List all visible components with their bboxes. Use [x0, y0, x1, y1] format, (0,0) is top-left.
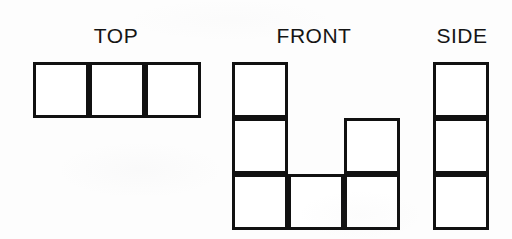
grid-cell — [344, 118, 400, 174]
grid-cell — [89, 62, 145, 118]
view-label-side: SIDE — [430, 25, 494, 46]
grid-cell — [145, 62, 201, 118]
grid-cell — [433, 118, 489, 174]
orthographic-views-figure: TOPFRONTSIDE — [0, 0, 512, 239]
grid-cell — [232, 174, 288, 230]
grid-cell — [288, 174, 344, 230]
grid-cell — [433, 174, 489, 230]
grid-cell — [232, 118, 288, 174]
grid-cell — [232, 62, 288, 118]
view-label-top: TOP — [82, 25, 150, 46]
view-label-front: FRONT — [272, 25, 356, 46]
grid-cell — [33, 62, 89, 118]
grid-cell — [433, 62, 489, 118]
grid-cell — [344, 174, 400, 230]
